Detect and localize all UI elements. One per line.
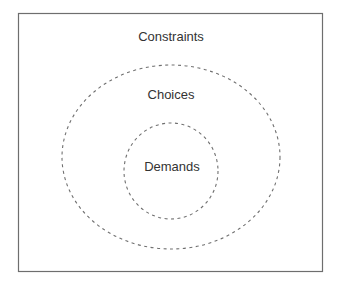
constraints-frame <box>19 14 323 272</box>
constraints-label: Constraints <box>138 29 204 44</box>
choices-label: Choices <box>148 87 195 102</box>
demands-label: Demands <box>144 159 200 174</box>
diagram-canvas: Constraints Choices Demands <box>0 0 343 281</box>
